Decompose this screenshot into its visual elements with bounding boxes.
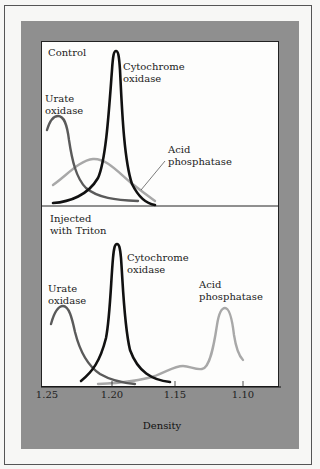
triton-panel-title-line2: with Triton: [50, 225, 107, 236]
control-urate-label-line1: Urate: [45, 93, 74, 104]
x-axis-title: Density: [143, 420, 182, 431]
triton-panel-title-line1: Injected: [50, 213, 92, 224]
triton-urate-label-line1: Urate: [48, 283, 77, 294]
tick-label-1-25: 1.25: [36, 389, 58, 400]
tick-label-1-10: 1.10: [232, 389, 254, 400]
triton-acid-phosphatase-curve: [98, 308, 243, 384]
triton-urate-oxidase-curve: [51, 306, 135, 384]
triton-acid-label-line1: Acid: [198, 279, 222, 290]
control-cyto-label-line1: Cytochrome: [123, 61, 185, 72]
control-panel: Control Urate oxidase Cytochrome oxidase…: [45, 47, 232, 205]
triton-cyto-label-line2: oxidase: [127, 264, 165, 275]
triton-panel: Injected with Triton Urate oxidase Cytoc…: [48, 213, 263, 384]
control-urate-label-line2: oxidase: [45, 105, 83, 116]
tick-label-1-20: 1.20: [101, 389, 123, 400]
density-chart: Control Urate oxidase Cytochrome oxidase…: [0, 0, 320, 469]
control-cyto-label-line2: oxidase: [123, 73, 161, 84]
control-acid-label-line2: phosphatase: [168, 156, 232, 167]
control-acid-leader-line: [141, 161, 165, 190]
triton-cyto-label-line1: Cytochrome: [127, 252, 189, 263]
control-acid-label-line1: Acid: [167, 144, 191, 155]
control-panel-title: Control: [48, 47, 86, 58]
x-axis: 1.25 1.20 1.15 1.10 Density: [36, 381, 281, 431]
triton-acid-label-line2: phosphatase: [199, 291, 263, 302]
triton-urate-label-line2: oxidase: [48, 295, 86, 306]
tick-label-1-15: 1.15: [164, 389, 186, 400]
